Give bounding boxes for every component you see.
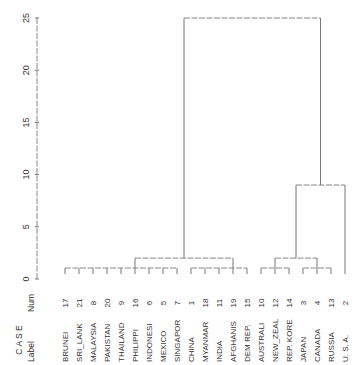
leaf-label: RUSSIA [327, 332, 336, 362]
leaf-num: 5 [159, 300, 168, 305]
leaf-label: MEXICO [159, 330, 168, 362]
leaf-label: JAPAN [299, 337, 308, 362]
y-tick-label: 0 [21, 276, 31, 281]
leaf-label: PHILIPPI [131, 329, 140, 362]
leaf-num: 18 [201, 298, 210, 307]
y-tick-label: 5 [21, 224, 31, 229]
leaf-label: REP. KORE [285, 319, 294, 362]
y-tick-label: 25 [21, 13, 31, 23]
leaf-label: CHINA [187, 336, 196, 362]
leaf-num: 12 [271, 298, 280, 307]
leaf-label: MYANMAR [201, 321, 210, 362]
case-header: C A S ELabelNum [14, 294, 36, 362]
leaf-num: 21 [75, 298, 84, 307]
leaf-num: 20 [103, 298, 112, 307]
label-header: Label [26, 341, 36, 362]
leaf-num: 9 [117, 300, 126, 305]
case-header-title: C A S E [14, 325, 24, 355]
leaf-label: MALAYSIA [89, 322, 98, 362]
leaf-num: 15 [243, 298, 252, 307]
leaf-label: SRI_LANK [75, 323, 84, 362]
leaf-num: 14 [285, 298, 294, 307]
leaf-label: CANADA [313, 328, 322, 362]
leaf-label: PAKISTAN [103, 323, 112, 362]
y-tick-label: 10 [21, 170, 31, 180]
leaf-label: DEM REP. [243, 324, 252, 362]
num-header: Num [26, 294, 36, 312]
leaf-num: 16 [131, 298, 140, 307]
leaf-labels: 17BRUNEI21SRI_LANK8MALAYSIA20PAKISTAN9TH… [61, 298, 350, 362]
leaf-num: 17 [61, 298, 70, 307]
leaf-num: 13 [327, 298, 336, 307]
leaf-label: NEW_ZEAL [271, 318, 280, 362]
leaf-num: 10 [257, 298, 266, 307]
y-tick-label: 20 [21, 65, 31, 75]
leaf-num: 6 [145, 300, 154, 305]
leaf-num: 7 [173, 300, 182, 305]
leaf-num: 11 [215, 298, 224, 307]
leaf-label: BRUNEI [61, 332, 70, 362]
leaf-label: THAILAND [117, 322, 126, 362]
leaf-num: 2 [341, 300, 350, 305]
leaf-num: 1 [187, 300, 196, 305]
y-tick-label: 15 [21, 117, 31, 127]
leaf-num: 19 [229, 298, 238, 307]
y-axis: 0510152025 [21, 13, 39, 282]
leaf-num: 3 [299, 300, 308, 305]
leaf-label: INDONESI [145, 323, 154, 362]
leaf-label: AFGHANIS [229, 321, 238, 362]
leaf-label: U. S. A. [341, 335, 350, 362]
dendrogram-chart: 0510152025 17BRUNEI21SRI_LANK8MALAYSIA20… [0, 0, 361, 365]
leaf-num: 4 [313, 300, 322, 305]
leaf-label: SINGAPOR [173, 320, 182, 362]
dendrogram-tree [65, 18, 345, 274]
leaf-label: INDIA [215, 340, 224, 362]
leaf-num: 8 [89, 300, 98, 305]
leaf-label: AUSTRALI [257, 323, 266, 362]
